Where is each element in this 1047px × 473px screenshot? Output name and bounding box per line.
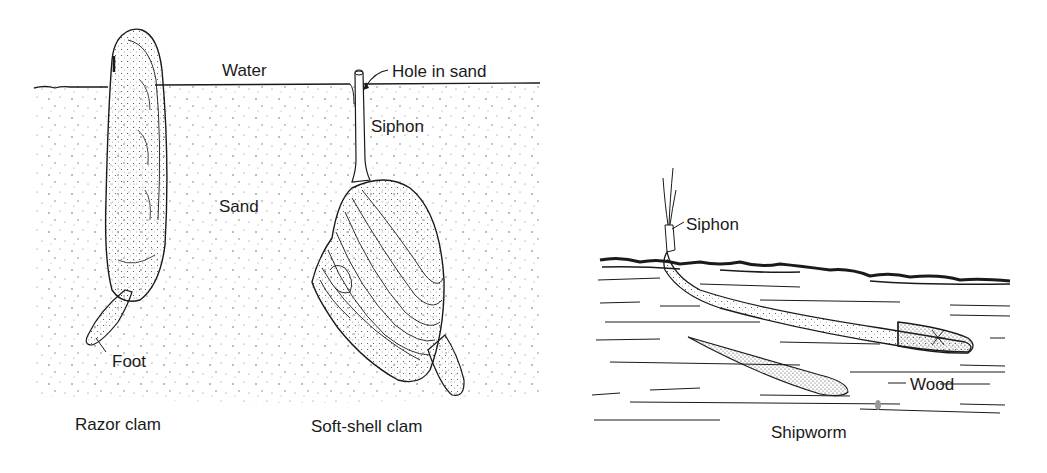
label-hole-in-sand: Hole in sand: [392, 63, 487, 80]
label-water: Water: [222, 62, 267, 79]
label-sand: Sand: [219, 198, 259, 215]
label-siphon-soft-shell: Siphon: [371, 118, 424, 135]
label-razor-clam: Razor clam: [75, 416, 161, 433]
shipworm-siphon-filaments: [663, 168, 676, 225]
bivalve-burrowing-diagram: [0, 0, 1047, 473]
shipworm-siphon-pointer: [672, 222, 684, 229]
label-wood: Wood: [910, 376, 954, 393]
wood-surface: [600, 258, 1010, 281]
label-shipworm: Shipworm: [771, 424, 847, 441]
wood-knot: [875, 400, 881, 410]
young-shipworm-body: [688, 337, 848, 396]
label-soft-shell-clam: Soft-shell clam: [311, 418, 422, 435]
label-siphon-shipworm: Siphon: [686, 216, 739, 233]
label-foot: Foot: [112, 353, 146, 370]
shipworm-siphon: [665, 225, 675, 252]
